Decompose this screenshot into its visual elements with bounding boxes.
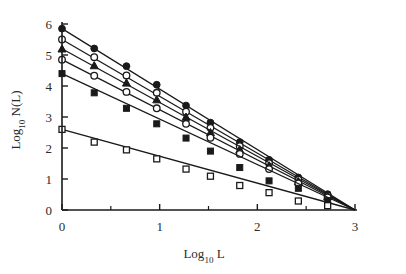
y-tick-label: 5 <box>46 48 53 63</box>
data-point-marker <box>91 139 97 145</box>
y-tick-label: 6 <box>46 17 53 32</box>
data-point-marker <box>207 134 214 141</box>
x-tick-label: 1 <box>156 219 163 234</box>
chart-figure: 01230123456 Log10 L Log10 N(L) <box>0 0 406 274</box>
data-point-marker <box>153 105 160 112</box>
y-tick-label: 0 <box>46 203 53 218</box>
y-tick-label: 1 <box>46 172 53 187</box>
data-point-marker <box>295 185 301 191</box>
data-point-marker <box>266 178 272 184</box>
data-point-marker <box>207 173 213 179</box>
data-point-marker <box>123 147 129 153</box>
data-point-marker <box>183 135 189 141</box>
data-point-marker <box>154 156 160 162</box>
data-point-marker <box>295 198 301 204</box>
data-point-marker <box>91 45 98 52</box>
data-point-marker <box>91 90 97 96</box>
x-tick-label: 0 <box>59 219 66 234</box>
data-point-marker <box>91 72 98 79</box>
data-point-marker <box>91 54 98 61</box>
data-point-marker <box>183 166 189 172</box>
data-point-marker <box>153 81 160 88</box>
data-point-marker <box>266 190 272 196</box>
data-point-marker <box>123 63 130 70</box>
data-point-marker <box>123 89 130 96</box>
y-tick-label: 3 <box>46 110 53 125</box>
data-point-marker <box>123 105 129 111</box>
y-tick-label: 4 <box>46 79 53 94</box>
log-log-number-density-plot: 01230123456 Log10 L Log10 N(L) <box>0 0 406 274</box>
data-point-marker <box>154 121 160 127</box>
y-tick-label: 2 <box>46 141 53 156</box>
data-point-marker <box>207 148 213 154</box>
data-point-marker <box>237 165 243 171</box>
data-point-marker <box>237 183 243 189</box>
x-tick-label: 3 <box>352 219 359 234</box>
data-point-marker <box>183 121 190 128</box>
data-point-marker <box>123 72 130 79</box>
x-tick-label: 2 <box>254 219 261 234</box>
data-point-marker <box>325 203 331 209</box>
